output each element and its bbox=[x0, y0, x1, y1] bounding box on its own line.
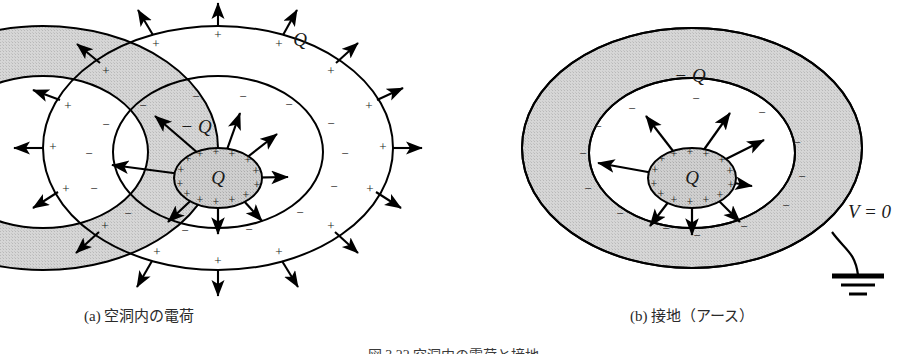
svg-text:+: + bbox=[214, 27, 221, 42]
svg-text:+: + bbox=[152, 36, 159, 51]
svg-text:−: − bbox=[192, 89, 199, 104]
svg-text:−: − bbox=[102, 117, 109, 132]
svg-text:+: + bbox=[213, 145, 220, 159]
ground-wire bbox=[832, 232, 858, 275]
figure-canvas: + + + + + + + + + + + + + + + + − − − − … bbox=[0, 0, 907, 354]
svg-text:−: − bbox=[584, 181, 591, 196]
svg-text:+: + bbox=[379, 139, 386, 154]
svg-text:+: + bbox=[49, 139, 56, 154]
diagram-svg: + + + + + + + + + + + + + + + + − − − − … bbox=[0, 0, 907, 354]
svg-text:+: + bbox=[659, 152, 666, 166]
svg-text:−: − bbox=[662, 221, 669, 236]
label-shell-charge-b: − Q bbox=[674, 65, 706, 86]
svg-text:−: − bbox=[139, 98, 146, 113]
svg-text:−: − bbox=[239, 89, 246, 104]
svg-text:+: + bbox=[365, 98, 372, 113]
svg-text:+: + bbox=[671, 193, 678, 207]
svg-text:−: − bbox=[798, 169, 805, 184]
svg-text:−: − bbox=[782, 198, 789, 213]
svg-text:+: + bbox=[177, 177, 184, 191]
svg-text:−: − bbox=[341, 146, 348, 161]
svg-text:+: + bbox=[651, 177, 658, 191]
svg-text:+: + bbox=[214, 253, 221, 268]
label-potential-zero: V = 0 bbox=[848, 201, 892, 222]
svg-text:+: + bbox=[327, 218, 334, 233]
svg-text:−: − bbox=[124, 206, 131, 221]
svg-text:+: + bbox=[153, 244, 160, 259]
label-cavity-wall-charge-a: − Q bbox=[180, 116, 212, 137]
svg-text:−: − bbox=[628, 101, 635, 116]
panel-b: − − − − − − − − − − − − − + bbox=[522, 28, 892, 294]
label-inner-charge-b: Q bbox=[685, 167, 699, 188]
svg-text:+: + bbox=[243, 188, 250, 202]
svg-text:−: − bbox=[330, 179, 337, 194]
svg-text:+: + bbox=[197, 193, 204, 207]
panel-a-caption: (a) 空洞内の電荷 bbox=[84, 304, 194, 325]
svg-text:+: + bbox=[178, 163, 185, 177]
label-inner-charge-a: Q bbox=[211, 167, 225, 188]
earth-ground-icon bbox=[832, 276, 884, 294]
svg-text:+: + bbox=[64, 98, 71, 113]
svg-text:+: + bbox=[197, 147, 204, 161]
svg-text:+: + bbox=[185, 152, 192, 166]
svg-text:−: − bbox=[181, 223, 188, 238]
svg-text:+: + bbox=[719, 153, 726, 167]
panel-a: + + + + + + + + + + + + + + + + − − − − … bbox=[0, 3, 422, 296]
figure-caption: 図 3.22 空洞内の電荷と接地 bbox=[0, 344, 907, 354]
svg-text:−: − bbox=[692, 91, 699, 106]
svg-text:−: − bbox=[579, 146, 586, 161]
svg-text:+: + bbox=[652, 163, 659, 177]
svg-text:−: − bbox=[616, 206, 623, 221]
svg-text:+: + bbox=[253, 164, 260, 178]
svg-text:+: + bbox=[184, 187, 191, 201]
svg-text:−: − bbox=[245, 222, 252, 237]
svg-text:−: − bbox=[740, 219, 747, 234]
svg-text:+: + bbox=[229, 193, 236, 207]
svg-text:−: − bbox=[594, 119, 601, 134]
svg-text:+: + bbox=[687, 145, 694, 159]
svg-text:+: + bbox=[102, 63, 109, 78]
panel-b-caption: (b) 接地（アース） bbox=[630, 304, 754, 325]
svg-text:+: + bbox=[101, 218, 108, 233]
svg-text:+: + bbox=[245, 153, 252, 167]
svg-text:+: + bbox=[717, 188, 724, 202]
svg-text:+: + bbox=[671, 147, 678, 161]
svg-text:+: + bbox=[658, 187, 665, 201]
svg-text:+: + bbox=[703, 193, 710, 207]
svg-text:+: + bbox=[366, 181, 373, 196]
svg-text:+: + bbox=[727, 164, 734, 178]
svg-text:−: − bbox=[285, 97, 292, 112]
svg-text:−: − bbox=[327, 116, 334, 131]
svg-text:+: + bbox=[62, 181, 69, 196]
svg-text:+: + bbox=[327, 63, 334, 78]
svg-text:+: + bbox=[229, 147, 236, 161]
svg-text:−: − bbox=[693, 228, 700, 243]
svg-text:−: − bbox=[758, 105, 765, 120]
svg-text:+: + bbox=[275, 244, 282, 259]
svg-text:−: − bbox=[85, 146, 92, 161]
svg-text:+: + bbox=[687, 195, 694, 209]
label-outer-charge-a: Q bbox=[293, 29, 307, 50]
svg-text:−: − bbox=[793, 135, 800, 150]
svg-text:+: + bbox=[728, 178, 735, 192]
svg-text:−: − bbox=[90, 181, 97, 196]
svg-text:+: + bbox=[213, 195, 220, 209]
svg-text:+: + bbox=[254, 178, 261, 192]
svg-text:+: + bbox=[703, 147, 710, 161]
svg-text:+: + bbox=[275, 36, 282, 51]
svg-text:−: − bbox=[296, 205, 303, 220]
